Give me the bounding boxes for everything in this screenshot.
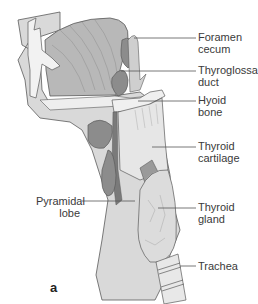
trachea (156, 254, 186, 304)
panel-letter: a (50, 280, 57, 295)
epiglottis (128, 35, 146, 92)
label-thyroid-cartilage: Thyroid cartilage (198, 140, 240, 164)
thyroid-gland (138, 170, 176, 262)
label-thyroid-gland: Thyroid gland (198, 201, 235, 225)
label-hyoid-bone: Hyoid bone (198, 94, 226, 118)
label-pyramidal-lobe: Pyramidal lobe (36, 195, 80, 219)
label-thyroglossal-duct: Thyroglossal duct (198, 64, 258, 88)
label-foramen-cecum: Foramen cecum (198, 31, 242, 55)
label-trachea: Trachea (198, 260, 238, 272)
